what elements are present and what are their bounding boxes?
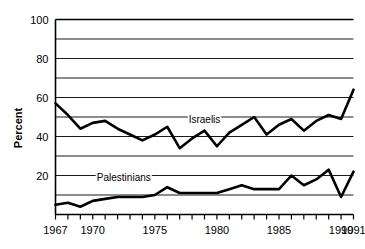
x-axis-tick-label: 1970	[81, 224, 105, 236]
data-series	[56, 90, 354, 207]
x-axis-tick-label: 1980	[205, 224, 229, 236]
chart-container: 20406080100 1967197019751980198519901991…	[0, 0, 365, 249]
x-axis-tick-label: 1967	[43, 224, 67, 236]
y-axis-label: Percent	[12, 107, 24, 148]
x-axis-tick-label: 1991	[341, 224, 365, 236]
y-axis-tick-label: 80	[36, 53, 48, 65]
y-axis-tick-labels: 20406080100	[30, 14, 48, 182]
y-axis-tick-label: 100	[30, 14, 48, 26]
line-chart: 20406080100 1967197019751980198519901991…	[0, 0, 365, 249]
y-axis-tick-label: 60	[36, 92, 48, 104]
series-annotations: IsraelisPalestinians	[97, 114, 221, 184]
series-annotation: Israelis	[189, 114, 221, 125]
series-annotation: Palestinians	[97, 172, 151, 183]
x-axis-tick-label: 1975	[143, 224, 167, 236]
x-axis-tick-label: 1985	[267, 224, 291, 236]
y-axis-tick-label: 40	[36, 131, 48, 143]
y-axis-tick-label: 20	[36, 170, 48, 182]
x-axis-tick-labels: 1967197019751980198519901991	[43, 224, 365, 236]
